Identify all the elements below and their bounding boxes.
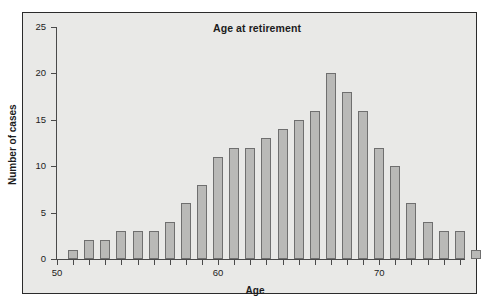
x-tick-mark — [202, 260, 203, 265]
histogram-bar — [133, 231, 143, 259]
histogram-bar — [342, 92, 352, 259]
histogram-bar — [149, 231, 159, 259]
x-tick-mark — [266, 260, 267, 265]
x-tick-mark — [347, 260, 348, 265]
x-tick-mark — [186, 260, 187, 265]
histogram-bar — [229, 148, 239, 259]
x-tick-mark — [105, 260, 106, 265]
histogram-bar — [197, 185, 207, 259]
x-tick-mark — [234, 260, 235, 265]
x-tick-mark — [283, 260, 284, 265]
x-tick-mark — [331, 260, 332, 265]
histogram-bar — [326, 73, 336, 259]
x-tick-mark — [460, 260, 461, 265]
x-tick-mark — [121, 260, 122, 265]
histogram-bar — [374, 148, 384, 259]
x-tick-label: 70 — [364, 268, 394, 278]
x-tick-mark — [395, 260, 396, 265]
histogram-bar — [261, 138, 271, 259]
x-tick-mark — [299, 260, 300, 265]
x-tick-mark — [444, 260, 445, 265]
histogram-bar — [471, 250, 481, 259]
histogram-bar — [439, 231, 449, 259]
histogram-bar — [294, 120, 304, 259]
x-axis-line — [56, 259, 465, 260]
x-tick-mark — [57, 260, 58, 265]
x-tick-mark — [73, 260, 74, 265]
histogram-bar — [68, 250, 78, 259]
x-tick-mark — [250, 260, 251, 265]
histogram-bar — [406, 203, 416, 259]
chart-figure: Age at retirement Number of cases Age 05… — [0, 0, 490, 307]
histogram-bar — [84, 240, 94, 259]
x-tick-mark — [170, 260, 171, 265]
x-axis-label: Age — [0, 285, 490, 296]
x-tick-mark — [218, 260, 219, 265]
histogram-bar — [390, 166, 400, 259]
histogram-bar — [455, 231, 465, 259]
histogram-bar — [116, 231, 126, 259]
x-tick-mark — [411, 260, 412, 265]
bars-layer — [0, 27, 490, 259]
histogram-bar — [245, 148, 255, 259]
x-tick-mark — [138, 260, 139, 265]
histogram-bar — [100, 240, 110, 259]
x-tick-mark — [363, 260, 364, 265]
histogram-bar — [213, 157, 223, 259]
histogram-bar — [310, 111, 320, 259]
x-tick-label: 60 — [203, 268, 233, 278]
x-tick-mark — [315, 260, 316, 265]
histogram-bar — [165, 222, 175, 259]
histogram-bar — [358, 111, 368, 259]
x-tick-mark — [89, 260, 90, 265]
x-tick-mark — [379, 260, 380, 265]
x-tick-label: 50 — [42, 268, 72, 278]
histogram-bar — [278, 129, 288, 259]
x-tick-mark — [428, 260, 429, 265]
histogram-bar — [423, 222, 433, 259]
x-tick-mark — [154, 260, 155, 265]
histogram-bar — [181, 203, 191, 259]
